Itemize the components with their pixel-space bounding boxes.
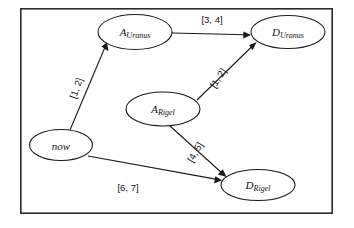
edge-a-rigel-to-d-uranus: [1, 2] [197,42,257,100]
edge-now-to-a-uranus: [1, 2] [67,42,108,130]
node-label-now: now [52,140,71,152]
diagram-canvas: [1, 2] [3, 4] [1, 2] [4, 5] [6, 7] now [0,0,354,228]
node-base-text: D [271,26,280,38]
arrow-head-icon [214,176,222,183]
edge-a-rigel-to-d-rigel: [4, 5] [170,126,227,177]
node-d-uranus[interactable]: DUranus [251,16,325,49]
edge-label-now-to-d-rigel: [6, 7] [117,182,138,193]
node-subscript-text: Rigel [253,184,272,193]
edge-label-now-to-a-uranus: [1, 2] [67,76,84,100]
node-base-text: now [52,140,71,152]
node-a-rigel[interactable]: ARigel [126,92,200,126]
edge-line [172,33,246,35]
edge-line [88,156,217,179]
node-base-text: D [245,179,254,191]
node-a-uranus[interactable]: AUranus [98,15,172,50]
node-subscript-text: Uranus [280,31,304,40]
edge-a-uranus-to-d-uranus: [3, 4] [172,14,251,39]
diagram-svg: [1, 2] [3, 4] [1, 2] [4, 5] [6, 7] now [0,0,354,228]
arrow-head-icon [243,31,251,38]
node-now[interactable]: now [30,130,93,161]
node-subscript-text: Uranus [126,31,150,40]
node-d-rigel[interactable]: DRigel [221,170,295,201]
edge-label-a-rigel-to-d-rigel: [4, 5] [185,140,205,164]
edge-label-a-uranus-to-d-uranus: [3, 4] [201,14,222,25]
edge-label-a-rigel-to-d-uranus: [1, 2] [208,66,229,90]
arrow-head-icon [249,42,257,50]
node-subscript-text: Rigel [157,108,176,117]
edge-now-to-d-rigel: [6, 7] [88,156,222,193]
